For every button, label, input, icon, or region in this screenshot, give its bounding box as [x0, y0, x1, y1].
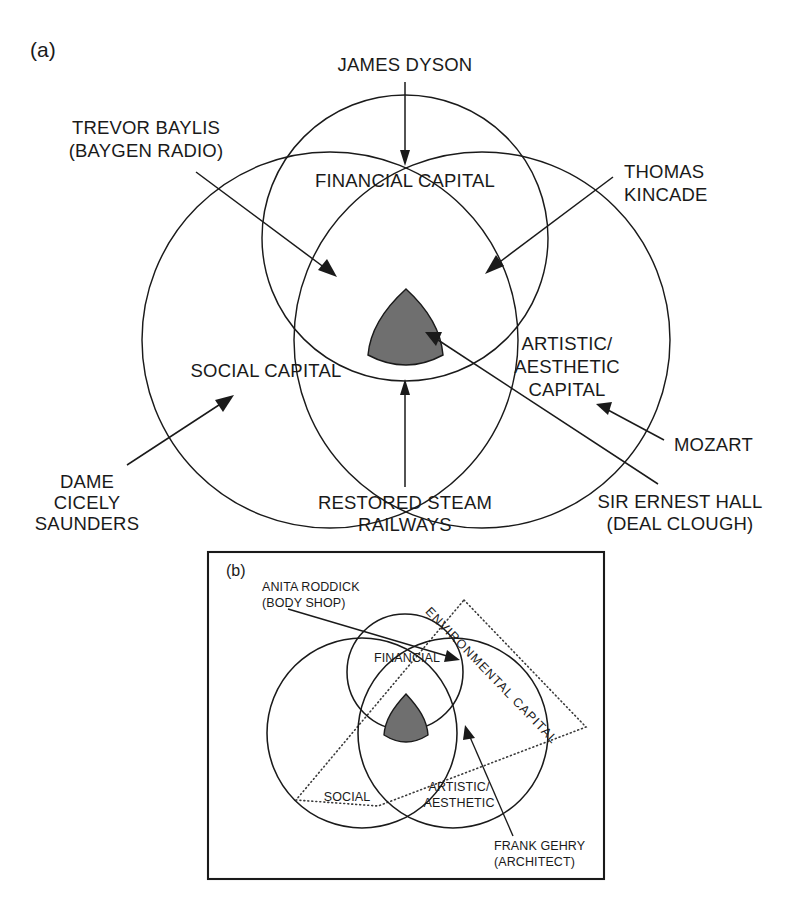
leader-dame-cicely — [127, 403, 222, 465]
region-label-b-environmental-capital: ENVIRONMENTAL CAPITAL — [423, 604, 561, 746]
venn-figure: (a) JAMES DYSON TREVOR BAYLIS (BAYGEN RA… — [0, 0, 790, 920]
panel-a-letter: (a) — [30, 38, 56, 61]
panel-b-letter: (b) — [226, 562, 246, 579]
region-label-artistic-capital-line1: ARTISTIC/ — [522, 333, 614, 354]
label-trevor-baylis-line1: TREVOR BAYLIS — [72, 117, 220, 138]
label-frank-gehry-line1: FRANK GEHRY — [494, 839, 586, 853]
label-dame-cicely-line3: SAUNDERS — [35, 513, 139, 534]
region-label-b-financial: FINANCIAL — [374, 651, 440, 665]
arrowhead-anita-roddick — [444, 650, 460, 662]
region-label-artistic-capital-line3: CAPITAL — [528, 379, 605, 400]
leader-anita-roddick — [288, 609, 447, 656]
label-dame-cicely-line1: DAME — [60, 471, 114, 492]
shaded-center-region-a — [368, 289, 443, 365]
label-thomas-kincade-line1: THOMAS — [624, 161, 704, 182]
arrowhead-thomas-kincade — [485, 255, 504, 274]
label-frank-gehry-line2: (ARCHITECT) — [494, 855, 575, 869]
shaded-center-region-b — [384, 694, 428, 742]
leader-mozart — [608, 410, 664, 440]
region-label-b-artistic-line1: ARTISTIC/ — [428, 780, 490, 794]
arrowhead-trevor-baylis — [318, 259, 337, 277]
figure-root: (a) JAMES DYSON TREVOR BAYLIS (BAYGEN RA… — [0, 0, 790, 920]
region-label-b-artistic-line2: AESTHETIC — [423, 796, 494, 810]
label-anita-roddick-line2: (BODY SHOP) — [262, 596, 346, 610]
arrowhead-james-dyson — [400, 150, 410, 166]
label-anita-roddick-line1: ANITA RODDICK — [262, 580, 360, 594]
circle-social-capital — [142, 152, 518, 528]
label-restored-steam-line1: RESTORED STEAM — [318, 492, 492, 513]
leader-trevor-baylis — [196, 172, 325, 268]
leader-thomas-kincade — [497, 177, 613, 264]
label-sir-ernest-hall-line2: (DEAL CLOUGH) — [607, 513, 754, 534]
arrowhead-mozart — [596, 402, 612, 415]
label-sir-ernest-hall-line1: SIR ERNEST HALL — [597, 491, 762, 512]
label-mozart: MOZART — [674, 434, 753, 455]
arrowhead-frank-gehry — [463, 725, 475, 740]
arrowhead-dame-cicely — [215, 395, 234, 412]
panel-b: (b) ANITA RODDICK (BODY SHOP) FINANCIAL … — [208, 552, 604, 879]
region-label-social-capital: SOCIAL CAPITAL — [191, 360, 342, 381]
label-trevor-baylis-line2: (BAYGEN RADIO) — [69, 140, 224, 161]
panel-a: (a) JAMES DYSON TREVOR BAYLIS (BAYGEN RA… — [30, 38, 763, 535]
circle-artistic-capital — [294, 152, 670, 528]
region-label-b-social: SOCIAL — [324, 790, 370, 804]
label-restored-steam-line2: RAILWAYS — [358, 514, 452, 535]
label-dame-cicely-line2: CICELY — [54, 492, 121, 513]
region-label-artistic-capital-line2: AESTHETIC — [514, 356, 620, 377]
label-james-dyson: JAMES DYSON — [338, 54, 473, 75]
label-thomas-kincade-line2: KINCADE — [624, 184, 708, 205]
region-label-financial-capital: FINANCIAL CAPITAL — [315, 170, 495, 191]
